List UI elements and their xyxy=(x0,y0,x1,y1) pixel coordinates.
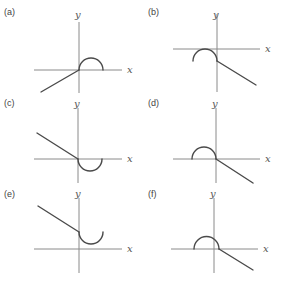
panel-f: (f) y x xyxy=(148,188,269,273)
line-segment xyxy=(37,133,78,159)
panel-label-f: (f) xyxy=(148,189,157,199)
semicircle-curve xyxy=(79,58,103,70)
semicircle-curve xyxy=(193,49,217,61)
y-axis-label: y xyxy=(209,188,216,199)
x-axis-label: x xyxy=(127,64,133,75)
x-axis-label: x xyxy=(263,243,269,254)
panel-a: (a) y x xyxy=(4,7,133,93)
figure-diagram: (a) y x (b) y x (c) y x (d) y x xyxy=(0,0,282,281)
panel-label-b: (b) xyxy=(148,7,159,17)
y-axis-label: y xyxy=(74,188,81,199)
line-segment xyxy=(217,61,256,85)
x-axis-label: x xyxy=(127,243,133,254)
y-axis-label: y xyxy=(211,98,218,109)
line-segment xyxy=(216,159,253,183)
semicircle-curve xyxy=(78,159,102,171)
panel-c: (c) y x xyxy=(4,98,133,183)
panel-label-e: (e) xyxy=(4,189,15,199)
panel-label-d: (d) xyxy=(148,98,159,108)
semicircle-curve xyxy=(192,147,216,159)
panel-b: (b) y x xyxy=(148,7,271,92)
semicircle-curve xyxy=(194,237,219,250)
x-axis-label: x xyxy=(127,153,133,164)
line-segment xyxy=(41,70,79,92)
line-segment xyxy=(219,249,253,270)
panel-label-a: (a) xyxy=(4,7,15,17)
y-axis-label: y xyxy=(74,9,81,20)
y-axis-label: y xyxy=(73,98,80,109)
x-axis-label: x xyxy=(265,43,271,54)
semicircle-curve xyxy=(79,232,103,244)
line-segment xyxy=(38,206,79,232)
x-axis-label: x xyxy=(265,153,271,164)
y-axis-label: y xyxy=(212,9,219,20)
panel-label-c: (c) xyxy=(4,98,15,108)
panel-e: (e) y x xyxy=(4,188,133,273)
panel-d: (d) y x xyxy=(148,98,271,183)
